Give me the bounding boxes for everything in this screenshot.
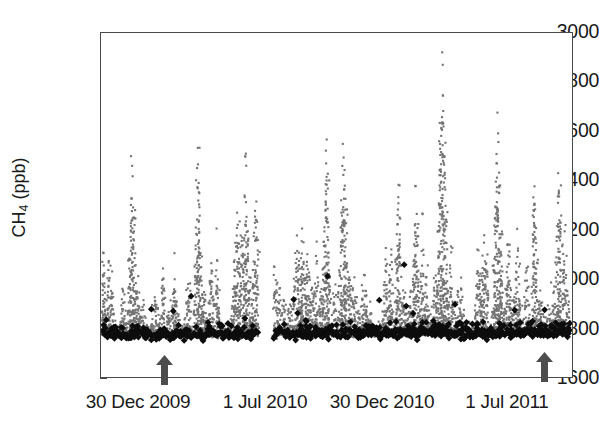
annotation-arrow-up-icon — [536, 352, 553, 382]
scatter-plot-canvas — [101, 33, 572, 377]
x-tick-label: 1 Jul 2011 — [417, 392, 597, 411]
y-axis-title-unit: (ppb) — [9, 158, 29, 205]
chart-figure: CH4 (ppb) 300028002600240022002000180016… — [0, 0, 599, 435]
annotation-arrow-up-icon — [156, 355, 173, 385]
y-axis-title-base: CH — [9, 212, 29, 238]
gray-dot-series — [101, 51, 571, 340]
plot-area — [100, 32, 573, 378]
y-axis-title: CH4 (ppb) — [10, 138, 33, 258]
y-axis-title-subscript: 4 — [17, 205, 31, 212]
